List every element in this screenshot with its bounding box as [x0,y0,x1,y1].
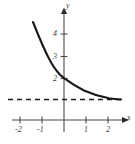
y-tick-label-3: 3 [53,53,57,61]
x-tick-label-minus2: -2 [15,126,22,134]
x-tick-label-1: 1 [84,126,88,134]
x-axis-label: x [127,114,131,122]
exponential-curve [33,22,121,100]
y-axis-label: y [66,2,70,10]
y-tick-label-4: 4 [53,30,57,38]
graph-canvas [0,0,135,144]
y-tick-label-2: 2 [53,75,57,83]
x-tick-label-2: 2 [106,126,110,134]
x-tick-label-minus1: -1 [37,126,44,134]
graph-figure: y x 4 3 2 -2 -1 1 2 [0,0,135,144]
